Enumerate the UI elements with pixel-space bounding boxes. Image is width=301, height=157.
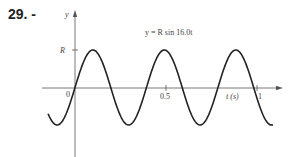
t-axis-label: t (s)	[226, 92, 239, 101]
sine-curve	[48, 50, 273, 125]
sine-chart: y R 0 0.5 1 t (s) y = R sin 16.0t	[0, 0, 301, 157]
one-tick-label: 1	[258, 92, 262, 101]
origin-label: 0	[66, 90, 70, 99]
y-axis-label: y	[64, 10, 69, 19]
y-axis-arrow-icon	[73, 10, 77, 17]
equation-label: y = R sin 16.0t	[145, 28, 193, 37]
half-tick-label: 0.5	[160, 92, 170, 101]
r-label: R	[59, 46, 65, 55]
x-axis-arrow-icon	[276, 86, 283, 90]
